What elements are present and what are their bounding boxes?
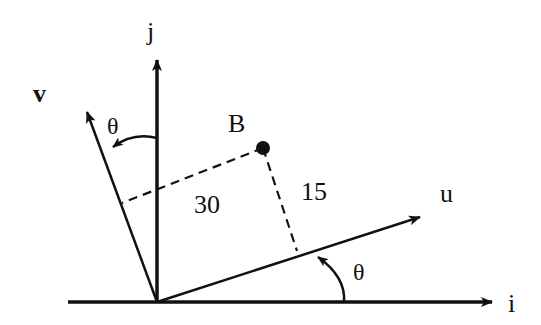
point-b-label: B bbox=[228, 109, 245, 138]
point-b-dot bbox=[256, 141, 270, 155]
angle-arc-bottom bbox=[318, 257, 344, 302]
angle-label-top: θ bbox=[107, 113, 119, 139]
distance-label-15: 15 bbox=[301, 177, 327, 206]
u-axis bbox=[157, 217, 420, 302]
distance-label-30: 30 bbox=[194, 190, 220, 219]
angle-label-bottom: θ bbox=[353, 259, 365, 285]
v-axis-label: v bbox=[33, 79, 46, 108]
vector-diagram: j i u v B θ θ 30 15 bbox=[0, 0, 541, 325]
angle-arc-top bbox=[113, 136, 157, 147]
projection-to-u bbox=[263, 148, 297, 251]
projection-to-v bbox=[122, 148, 263, 203]
u-axis-label: u bbox=[440, 179, 453, 208]
i-axis-label: i bbox=[508, 289, 515, 318]
j-axis-label: j bbox=[146, 17, 154, 46]
